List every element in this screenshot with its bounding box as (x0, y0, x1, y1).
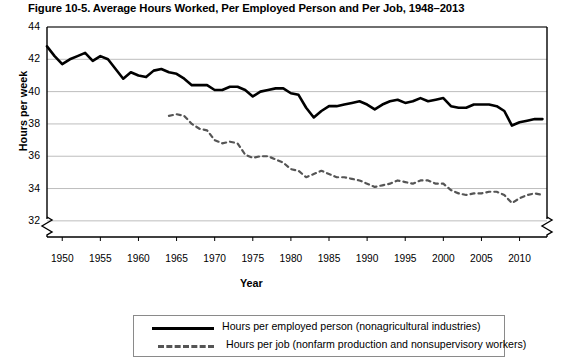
y-tick-36: 36 (18, 149, 40, 161)
x-tick-1970: 1970 (195, 253, 235, 264)
x-tick-1990: 1990 (347, 253, 387, 264)
x-tick-2000: 2000 (423, 253, 463, 264)
y-tick-32: 32 (18, 214, 40, 226)
x-tick-1975: 1975 (233, 253, 273, 264)
chart-legend: Hours per employed person (nonagricultur… (133, 315, 505, 357)
x-tick-1950: 1950 (42, 253, 82, 264)
x-tick-2010: 2010 (500, 253, 540, 264)
x-tick-1955: 1955 (80, 253, 120, 264)
series-per-job (169, 114, 542, 203)
legend-item-per-job: Hours per job (nonfarm production and no… (134, 337, 504, 355)
solid-line-key (152, 327, 214, 330)
series-employed-person (47, 46, 542, 125)
y-tick-40: 40 (18, 85, 40, 97)
y-tick-42: 42 (18, 52, 40, 64)
y-axis-label: Hours per week (17, 66, 29, 156)
x-tick-1995: 1995 (385, 253, 425, 264)
x-tick-1965: 1965 (157, 253, 197, 264)
x-tick-1960: 1960 (118, 253, 158, 264)
legend-item-employed-person: Hours per employed person (nonagricultur… (134, 319, 504, 337)
x-tick-1980: 1980 (271, 253, 311, 264)
dashed-line-key (158, 345, 214, 348)
legend-label-employed-person: Hours per employed person (nonagricultur… (222, 320, 481, 332)
y-tick-44: 44 (18, 20, 40, 32)
x-tick-2005: 2005 (461, 253, 501, 264)
x-axis-label: Year (240, 277, 263, 289)
y-tick-38: 38 (18, 117, 40, 129)
y-tick-34: 34 (18, 182, 40, 194)
x-tick-1985: 1985 (309, 253, 349, 264)
legend-label-per-job: Hours per job (nonfarm production and no… (226, 338, 526, 350)
